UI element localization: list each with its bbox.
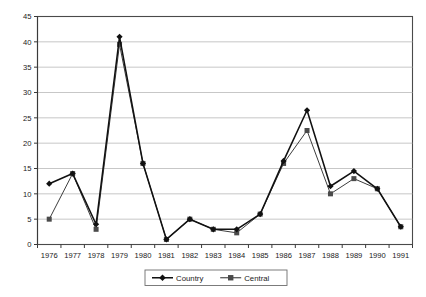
x-tick-label: 1983 [205, 251, 222, 260]
chart-canvas: 051015202530354045 197619771978197919801… [0, 0, 426, 297]
x-tick-label: 1986 [275, 251, 292, 260]
y-tick-label: 15 [23, 164, 31, 173]
y-tick-label: 5 [27, 215, 31, 224]
plot-area-frame [38, 17, 413, 245]
chart-legend: CountryCentral [145, 270, 287, 286]
x-tick-label: 1987 [299, 251, 316, 260]
data-point-marker [328, 191, 333, 196]
y-tick-label: 35 [23, 63, 31, 72]
legend-label: Central [244, 274, 269, 283]
data-point-marker [305, 128, 310, 133]
x-tick-label: 1982 [181, 251, 198, 260]
data-point-marker [351, 176, 356, 181]
y-tick-label: 0 [27, 240, 31, 249]
y-tick-label: 20 [23, 139, 31, 148]
x-tick-label: 1978 [88, 251, 105, 260]
x-tick-label: 1981 [158, 251, 175, 260]
legend-marker [228, 275, 233, 280]
x-tick-label: 1984 [228, 251, 245, 260]
x-tick-label: 1976 [41, 251, 58, 260]
y-tick-label: 10 [23, 190, 31, 199]
x-tick-label: 1988 [322, 251, 339, 260]
x-tick-label: 1990 [369, 251, 386, 260]
legend-label: Country [176, 274, 203, 283]
x-tick-label: 1977 [64, 251, 81, 260]
data-point-marker [94, 227, 99, 232]
y-tick-label: 45 [23, 12, 31, 21]
data-point-marker [47, 217, 52, 222]
x-tick-label: 1989 [345, 251, 362, 260]
y-tick-label: 25 [23, 114, 31, 123]
x-tick-label: 1991 [392, 251, 409, 260]
line-chart: 051015202530354045 197619771978197919801… [0, 0, 426, 297]
x-tick-label: 1979 [111, 251, 128, 260]
y-tick-label: 30 [23, 88, 31, 97]
y-tick-label: 40 [23, 38, 31, 47]
x-tick-label: 1980 [135, 251, 152, 260]
x-tick-label: 1985 [252, 251, 269, 260]
